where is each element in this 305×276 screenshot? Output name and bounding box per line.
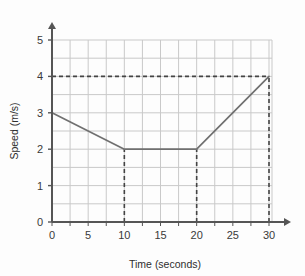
chart-canvas: 051015202530 012345 Time (seconds) Speed… xyxy=(0,0,305,276)
x-tick-label: 15 xyxy=(154,229,166,241)
y-tick-label: 3 xyxy=(37,107,43,119)
x-tick-label: 0 xyxy=(49,229,55,241)
grid-lines xyxy=(52,40,272,222)
x-tick-label: 5 xyxy=(85,229,91,241)
y-tick-label: 1 xyxy=(37,180,43,192)
y-tick-label: 5 xyxy=(37,34,43,46)
x-tick-label: 20 xyxy=(191,229,203,241)
y-axis-title: Speed (m/s) xyxy=(8,102,20,159)
tick-marks xyxy=(48,40,269,226)
x-axis-arrow-icon xyxy=(284,218,291,226)
y-tick-label: 2 xyxy=(37,143,43,155)
x-tick-label: 10 xyxy=(118,229,130,241)
x-tick-label: 30 xyxy=(263,229,275,241)
x-axis-tick-labels: 051015202530 xyxy=(49,229,275,241)
y-tick-label: 0 xyxy=(37,216,43,228)
x-axis-title: Time (seconds) xyxy=(129,258,201,270)
y-axis-tick-labels: 012345 xyxy=(37,34,43,228)
speed-time-graph: 051015202530 012345 Time (seconds) Speed… xyxy=(0,0,305,276)
x-tick-label: 25 xyxy=(227,229,239,241)
y-tick-label: 4 xyxy=(37,70,43,82)
y-axis-arrow-icon xyxy=(48,22,56,29)
axes xyxy=(48,22,291,226)
